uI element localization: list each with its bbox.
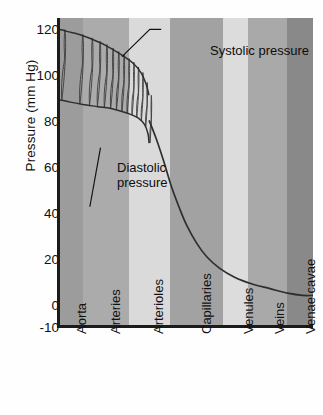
diastolic-annotation-line2: pressure [117, 175, 168, 190]
x-tick-label-venae-cavae: Venae cavae [303, 259, 318, 334]
y-tick-label-100: 100 [15, 69, 59, 83]
pressure-curve-layer [60, 18, 313, 325]
pulse-wave [122, 55, 125, 112]
pulse-wave [150, 95, 152, 143]
diastolic-pressure-annotation: Diastolic pressure [117, 161, 168, 190]
x-tick-label-arterioles: Arterioles [151, 279, 166, 334]
plot-area: Systolic pressure Diastolic pressure [57, 18, 313, 328]
pulse-wave [97, 41, 101, 106]
x-tick-label-arteries: Arteries [108, 289, 123, 334]
y-tick-label-80: 80 [15, 115, 59, 129]
pulse-wave [116, 51, 119, 109]
pulse-wave [132, 62, 135, 115]
blood-pressure-chart: Pressure (mm Hg) 120 100 80 60 40 20 0 -… [0, 0, 323, 415]
x-tick-label-capillaries: Capillaries [199, 273, 214, 334]
pulse-wave [89, 38, 93, 105]
pulse-wave [61, 30, 65, 100]
pulse-wave [127, 59, 130, 113]
x-tick-label-veins: Veins [272, 302, 287, 334]
x-tick-label-venules: Venules [241, 288, 256, 334]
mean-pressure-line [149, 120, 313, 295]
pulse-wave [141, 73, 143, 121]
pulse-wave [104, 44, 107, 107]
y-tick-label-60: 60 [15, 161, 59, 175]
y-tick-label-20: 20 [15, 253, 59, 267]
systolic-leader-line [122, 29, 161, 56]
systolic-pressure-annotation: Systolic pressure [210, 44, 309, 59]
pulse-wave [110, 48, 113, 109]
pulse-wave [137, 67, 139, 117]
x-tick-label-aorta: Aorta [74, 303, 89, 334]
diastolic-annotation-line1: Diastolic [117, 160, 166, 175]
y-tick-label-neg10: -10 [15, 321, 59, 335]
y-tick-label-0: 0 [15, 299, 59, 313]
y-tick-label-120: 120 [15, 23, 59, 37]
y-tick-label-40: 40 [15, 207, 59, 221]
diastolic-leader-line [90, 148, 101, 207]
pulse-wave [80, 34, 84, 103]
